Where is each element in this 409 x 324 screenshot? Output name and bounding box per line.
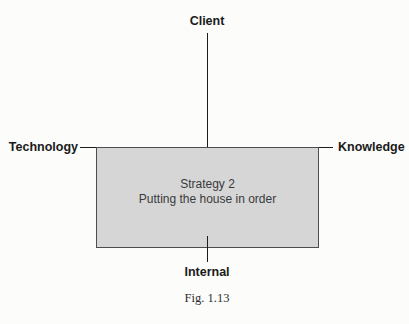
strategy-diagram: Client Technology Knowledge Strategy 2 P… [0,0,409,324]
strategy-box-title: Strategy 2 [180,177,235,192]
client-axis-line [207,33,209,147]
figure-caption: Fig. 1.13 [107,291,307,306]
axis-label-knowledge: Knowledge [338,140,408,154]
internal-axis-line [207,236,209,262]
axis-label-technology: Technology [8,140,78,154]
axis-label-client: Client [107,14,307,28]
strategy-box: Strategy 2 Putting the house in order [96,147,319,248]
strategy-box-subtitle: Putting the house in order [139,192,276,207]
axis-label-internal: Internal [107,265,307,279]
